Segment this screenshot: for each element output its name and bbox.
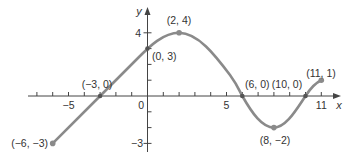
x-axis: −5 0 5 11 x (28, 92, 342, 111)
label-0-3: (0, 3) (152, 50, 177, 62)
graph-svg: −5 0 5 11 x 4 −3 y (0, 0, 353, 166)
x-tick-label-11: 11 (316, 99, 327, 111)
label-6-0: (6, 0) (245, 78, 270, 90)
point-m3-0 (98, 94, 103, 99)
x-axis-ticks (37, 92, 321, 96)
y-tick-label-neg3: −3 (131, 137, 143, 149)
label-m6-m3: (−6, −3) (11, 137, 48, 149)
x-axis-label: x (335, 99, 342, 111)
point-m6-m3 (50, 141, 56, 147)
label-2-4: (2, 4) (167, 14, 192, 26)
x-tick-label-5: 5 (224, 99, 230, 111)
y-axis: 4 −3 y (131, 5, 151, 152)
x-tick-label-neg5: −5 (63, 99, 75, 111)
point-2-4 (176, 30, 182, 36)
point-8-m2 (271, 125, 277, 131)
label-11-1: (11, 1) (306, 67, 336, 79)
y-axis-label: y (135, 5, 143, 17)
label-m3-0: (−3, 0) (82, 78, 113, 90)
label-10-0: (10, 0) (272, 78, 302, 90)
label-8-m2: (8, −2) (260, 134, 291, 146)
point-10-0 (303, 94, 308, 99)
point-6-0 (240, 94, 245, 99)
point-0-3 (145, 46, 150, 51)
y-axis-arrow-icon (145, 7, 151, 15)
y-tick-label-4: 4 (135, 27, 141, 39)
x-tick-label-zero: 0 (138, 99, 144, 111)
function-graph: −5 0 5 11 x 4 −3 y (0, 0, 353, 166)
